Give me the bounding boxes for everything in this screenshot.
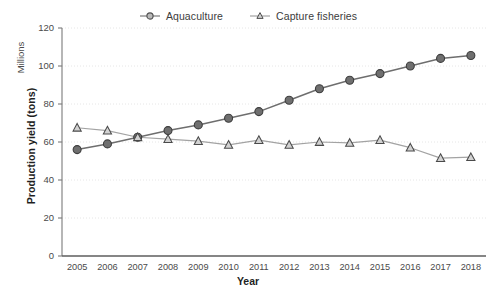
data-point-marker[interactable]: [315, 85, 323, 93]
x-tick-label: 2013: [309, 262, 329, 272]
y-tick-label: 100: [38, 60, 54, 71]
series-lines: [77, 56, 471, 159]
data-point-marker[interactable]: [437, 54, 445, 62]
plot-area: 020406080100120 200520062007200820092010…: [0, 0, 496, 296]
y-tick-label: 80: [43, 98, 54, 109]
data-point-marker[interactable]: [164, 127, 172, 135]
y-tick-label: 60: [43, 136, 54, 147]
data-point-marker[interactable]: [346, 76, 354, 84]
data-point-marker[interactable]: [225, 114, 233, 122]
x-tick-label: 2011: [249, 262, 269, 272]
y-axis-ticks: 020406080100120: [38, 22, 62, 261]
y-tick-label: 0: [49, 250, 54, 261]
x-tick-label: 2008: [158, 262, 178, 272]
x-tick-label: 2016: [400, 262, 420, 272]
data-point-marker[interactable]: [467, 52, 475, 60]
x-tick-label: 2017: [430, 262, 450, 272]
x-tick-label: 2009: [188, 262, 208, 272]
data-point-marker[interactable]: [376, 136, 384, 144]
x-tick-label: 2018: [461, 262, 481, 272]
data-point-marker[interactable]: [73, 123, 81, 131]
data-point-marker[interactable]: [406, 62, 414, 70]
data-point-marker[interactable]: [255, 108, 263, 116]
data-point-marker[interactable]: [376, 70, 384, 78]
data-point-marker[interactable]: [73, 146, 81, 154]
x-tick-label: 2005: [67, 262, 87, 272]
data-point-marker[interactable]: [285, 96, 293, 104]
data-point-marker[interactable]: [103, 140, 111, 148]
x-tick-label: 2014: [339, 262, 359, 272]
x-tick-label: 2015: [370, 262, 390, 272]
x-tick-label: 2012: [279, 262, 299, 272]
x-axis-ticks: 2005200620072008200920102011201220132014…: [67, 262, 481, 272]
y-tick-label: 40: [43, 174, 54, 185]
y-tick-label: 20: [43, 212, 54, 223]
line-chart: Aquaculture Capture fisheries Production…: [0, 0, 496, 296]
x-tick-label: 2007: [127, 262, 147, 272]
series-line-capture-fisheries: [77, 128, 471, 158]
x-tick-label: 2006: [97, 262, 117, 272]
x-tick-label: 2010: [218, 262, 238, 272]
data-point-marker[interactable]: [255, 136, 263, 144]
y-tick-label: 120: [38, 22, 54, 33]
gridlines: [62, 28, 486, 218]
data-point-marker[interactable]: [194, 121, 202, 129]
